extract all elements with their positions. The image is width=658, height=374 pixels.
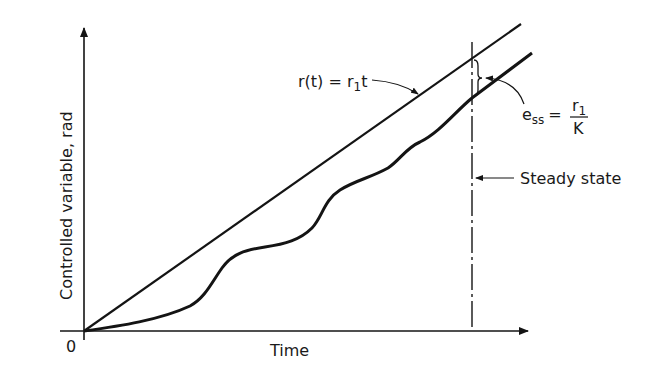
x-axis-label: Time — [269, 341, 309, 360]
ramp-response-diagram: Controlled variable, rad Time 0 r(t) = r… — [0, 0, 658, 374]
svg-text:ess=: ess= — [522, 105, 562, 127]
origin-label: 0 — [66, 337, 76, 356]
error-label: ess= r1 K — [522, 96, 588, 138]
svg-text:r1: r1 — [572, 96, 586, 118]
reference-label: r(t) = r1t — [298, 72, 367, 94]
response-curve — [84, 53, 532, 331]
y-axis-label: Controlled variable, rad — [57, 111, 76, 300]
steady-state-label: Steady state — [520, 169, 621, 188]
reference-leader — [372, 80, 418, 94]
svg-text:K: K — [573, 119, 584, 138]
reference-ramp-line — [84, 24, 521, 331]
